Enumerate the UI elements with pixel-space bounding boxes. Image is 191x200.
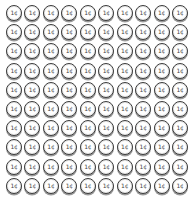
penny-coin-icon: 1¢ <box>24 24 40 40</box>
penny-coin-icon: 1¢ <box>6 101 22 117</box>
coin-label: 1¢ <box>10 106 17 112</box>
coin-label: 1¢ <box>158 10 165 16</box>
coin-label: 1¢ <box>140 164 147 170</box>
coin-label: 1¢ <box>176 144 183 150</box>
coin-label: 1¢ <box>10 144 17 150</box>
coin-label: 1¢ <box>158 68 165 74</box>
penny-coin-icon: 1¢ <box>61 178 77 194</box>
penny-coin-icon: 1¢ <box>154 82 170 98</box>
penny-coin-icon: 1¢ <box>61 43 77 59</box>
coin-label: 1¢ <box>47 125 54 131</box>
penny-coin-icon: 1¢ <box>61 24 77 40</box>
penny-coin-icon: 1¢ <box>135 43 151 59</box>
coin-label: 1¢ <box>140 68 147 74</box>
penny-coin-icon: 1¢ <box>80 139 96 155</box>
penny-coin-icon: 1¢ <box>98 159 114 175</box>
coin-label: 1¢ <box>158 164 165 170</box>
penny-coin-icon: 1¢ <box>24 101 40 117</box>
penny-coin-icon: 1¢ <box>117 178 133 194</box>
coin-label: 1¢ <box>84 29 91 35</box>
penny-coin-icon: 1¢ <box>117 43 133 59</box>
coin-label: 1¢ <box>103 106 110 112</box>
coin-label: 1¢ <box>84 10 91 16</box>
coin-label: 1¢ <box>29 87 36 93</box>
penny-coin-icon: 1¢ <box>117 101 133 117</box>
penny-coin-icon: 1¢ <box>61 82 77 98</box>
penny-coin-icon: 1¢ <box>135 63 151 79</box>
penny-coin-icon: 1¢ <box>98 120 114 136</box>
coin-label: 1¢ <box>29 10 36 16</box>
coin-label: 1¢ <box>29 144 36 150</box>
coin-label: 1¢ <box>66 106 73 112</box>
coin-label: 1¢ <box>29 164 36 170</box>
coin-label: 1¢ <box>66 87 73 93</box>
penny-coin-icon: 1¢ <box>172 178 188 194</box>
penny-coin-icon: 1¢ <box>172 120 188 136</box>
coin-label: 1¢ <box>47 144 54 150</box>
coin-label: 1¢ <box>10 10 17 16</box>
penny-coin-icon: 1¢ <box>80 43 96 59</box>
penny-coin-icon: 1¢ <box>43 24 59 40</box>
coin-label: 1¢ <box>47 106 54 112</box>
coin-label: 1¢ <box>47 183 54 189</box>
penny-coin-icon: 1¢ <box>154 24 170 40</box>
penny-coin-icon: 1¢ <box>6 159 22 175</box>
penny-coin-icon: 1¢ <box>98 178 114 194</box>
penny-coin-icon: 1¢ <box>43 120 59 136</box>
penny-coin-icon: 1¢ <box>172 5 188 21</box>
penny-coin-icon: 1¢ <box>43 63 59 79</box>
penny-coin-icon: 1¢ <box>135 120 151 136</box>
penny-coin-icon: 1¢ <box>80 5 96 21</box>
coin-label: 1¢ <box>29 125 36 131</box>
penny-coin-icon: 1¢ <box>61 63 77 79</box>
penny-coin-icon: 1¢ <box>43 5 59 21</box>
penny-coin-icon: 1¢ <box>98 43 114 59</box>
penny-coin-icon: 1¢ <box>154 178 170 194</box>
penny-coin-icon: 1¢ <box>61 139 77 155</box>
coin-label: 1¢ <box>158 48 165 54</box>
penny-coin-icon: 1¢ <box>154 5 170 21</box>
penny-coin-icon: 1¢ <box>80 159 96 175</box>
penny-coin-icon: 1¢ <box>24 63 40 79</box>
penny-coin-icon: 1¢ <box>24 120 40 136</box>
penny-coin-icon: 1¢ <box>6 120 22 136</box>
coin-label: 1¢ <box>176 87 183 93</box>
coin-label: 1¢ <box>103 87 110 93</box>
penny-coin-icon: 1¢ <box>135 159 151 175</box>
coin-label: 1¢ <box>84 164 91 170</box>
coin-label: 1¢ <box>29 106 36 112</box>
coin-label: 1¢ <box>84 183 91 189</box>
coin-label: 1¢ <box>158 144 165 150</box>
coin-label: 1¢ <box>47 10 54 16</box>
penny-coin-icon: 1¢ <box>117 139 133 155</box>
coin-label: 1¢ <box>140 10 147 16</box>
coin-label: 1¢ <box>121 164 128 170</box>
penny-coin-icon: 1¢ <box>117 82 133 98</box>
coin-label: 1¢ <box>158 29 165 35</box>
coin-label: 1¢ <box>103 144 110 150</box>
coin-label: 1¢ <box>66 48 73 54</box>
coin-label: 1¢ <box>66 68 73 74</box>
penny-coin-icon: 1¢ <box>24 5 40 21</box>
penny-coin-icon: 1¢ <box>154 120 170 136</box>
penny-coin-icon: 1¢ <box>98 24 114 40</box>
coin-label: 1¢ <box>29 48 36 54</box>
penny-coin-icon: 1¢ <box>172 82 188 98</box>
penny-coin-icon: 1¢ <box>61 5 77 21</box>
penny-coin-icon: 1¢ <box>117 5 133 21</box>
coin-label: 1¢ <box>121 87 128 93</box>
coin-label: 1¢ <box>47 29 54 35</box>
penny-coin-icon: 1¢ <box>135 5 151 21</box>
penny-coin-icon: 1¢ <box>172 139 188 155</box>
coin-label: 1¢ <box>10 48 17 54</box>
penny-coin-icon: 1¢ <box>80 24 96 40</box>
coin-label: 1¢ <box>121 125 128 131</box>
coin-label: 1¢ <box>176 106 183 112</box>
coin-label: 1¢ <box>176 164 183 170</box>
coin-label: 1¢ <box>84 87 91 93</box>
coin-label: 1¢ <box>140 29 147 35</box>
coin-label: 1¢ <box>140 87 147 93</box>
penny-coin-icon: 1¢ <box>24 159 40 175</box>
penny-coin-icon: 1¢ <box>80 120 96 136</box>
coin-label: 1¢ <box>103 164 110 170</box>
